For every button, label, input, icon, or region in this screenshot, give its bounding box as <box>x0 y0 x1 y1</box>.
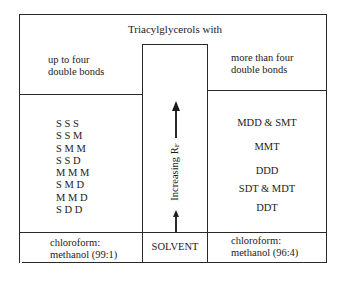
left-solvent-line-1: chloroform: <box>50 237 117 249</box>
axis-label: Increasing RF <box>169 137 183 207</box>
left-solvent-line-2: methanol (99:1) <box>50 249 117 261</box>
list-item: DDD <box>207 165 327 176</box>
arrow-up-icon <box>171 101 181 111</box>
tlc-diagram: Triacylglycerols with up to four double … <box>0 0 345 296</box>
left-solvent: chloroform: methanol (99:1) <box>50 237 117 261</box>
list-item: S S S <box>56 118 89 130</box>
left-header-line-2: double bonds <box>48 66 104 78</box>
list-item: MDD & SMT <box>207 117 327 128</box>
list-item: DDT <box>207 202 327 213</box>
list-item: S M M <box>56 143 89 155</box>
left-header-line-1: up to four <box>48 54 104 66</box>
list-item: SDT & MDT <box>207 183 327 194</box>
center-solvent-label: SOLVENT <box>143 241 207 253</box>
center-column-left <box>142 44 143 263</box>
outer-border-left <box>19 14 20 263</box>
right-solvent-line-2: methanol (96:4) <box>231 247 298 259</box>
list-item: MMT <box>207 141 327 152</box>
list-item: S S M <box>56 130 89 142</box>
axis-label-subscript: F <box>173 143 181 147</box>
right-solvent: chloroform: methanol (96:4) <box>231 235 298 259</box>
center-column-top <box>142 44 208 45</box>
arrow-shaft-lower <box>175 216 177 232</box>
axis-label-text: Increasing R <box>169 147 180 200</box>
left-header: up to four double bonds <box>48 54 104 78</box>
arrow-shaft-upper <box>175 108 177 138</box>
list-item: M M M <box>56 167 89 179</box>
left-triacylglycerol-list: S S S S S M S M M S S D M M M S M D M M … <box>56 118 89 216</box>
outer-border-bottom <box>22 262 327 263</box>
list-item: S D D <box>56 204 89 216</box>
left-header-divider <box>19 94 143 95</box>
right-triacylglycerol-list: MDD & SMT MMT DDD SDT & MDT DDT <box>207 0 327 220</box>
list-item: M M D <box>56 192 89 204</box>
right-solvent-line-1: chloroform: <box>231 235 298 247</box>
list-item: S S D <box>56 155 89 167</box>
list-item: S M D <box>56 179 89 191</box>
solvent-row-divider <box>19 232 327 233</box>
